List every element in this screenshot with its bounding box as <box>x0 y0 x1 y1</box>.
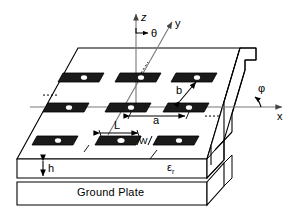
patch-element <box>163 103 209 112</box>
patch-element <box>43 103 89 112</box>
patch-element <box>171 73 217 82</box>
axis-label-y: y <box>175 17 181 29</box>
dimension-label-h: h <box>48 162 54 174</box>
patch-element <box>58 73 104 82</box>
substrate-permittivity-label: εr <box>167 161 174 175</box>
axis-label-x: x <box>277 110 283 122</box>
dimension-label-L: L <box>114 119 120 131</box>
patch-element <box>115 73 161 82</box>
axis-label-phi: φ <box>258 82 265 94</box>
patch-element <box>95 136 141 145</box>
axis-label-z: z <box>141 11 147 23</box>
axis-label-theta: θ <box>151 27 157 39</box>
substrate-front-face <box>17 159 207 178</box>
dimension-label-b: b <box>176 84 182 96</box>
theta-angle-indicator <box>136 28 148 33</box>
dimension-label-W: W <box>139 136 148 146</box>
ground-plate-label: Ground Plate <box>77 186 144 198</box>
patch-element <box>153 136 199 145</box>
antenna-array-diagram: z θ y x φ a b L W h εr Ground Plate <box>0 0 297 211</box>
diagram-canvas <box>0 0 297 211</box>
phi-angle-indicator <box>255 97 261 107</box>
patch-element <box>105 103 151 112</box>
dimension-label-a: a <box>153 114 159 126</box>
epsilon-subscript: r <box>172 168 174 175</box>
patch-element <box>32 136 78 145</box>
